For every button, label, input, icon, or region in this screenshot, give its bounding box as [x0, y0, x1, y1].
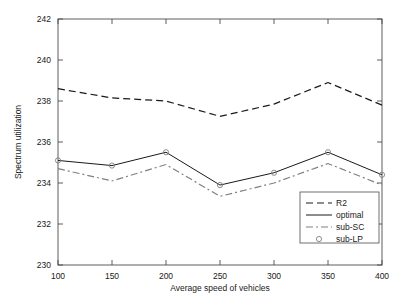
y-axis-title: Spectrum utilization — [13, 105, 23, 179]
chart-legend: R2optimalsub-SCsub-LP — [300, 192, 379, 244]
y-tick-label: 232 — [37, 219, 51, 229]
x-tick-label: 300 — [267, 271, 281, 281]
legend-label: optimal — [336, 210, 364, 220]
x-tick-label: 400 — [375, 271, 389, 281]
y-tick-label: 242 — [37, 14, 51, 24]
x-axis-title: Average speed of vehicles — [170, 283, 270, 293]
x-tick-label: 100 — [51, 271, 65, 281]
y-tick-label: 238 — [37, 96, 51, 106]
spectrum-utilization-chart: 230232234236238240242 100150200250300350… — [0, 0, 406, 307]
chart-background — [0, 0, 406, 307]
y-tick-label: 234 — [37, 178, 51, 188]
legend-label: sub-LP — [336, 234, 363, 244]
y-tick-label: 240 — [37, 55, 51, 65]
figure-canvas: 230232234236238240242 100150200250300350… — [0, 0, 406, 307]
legend-label: sub-SC — [336, 222, 364, 232]
x-tick-label: 350 — [321, 271, 335, 281]
x-tick-label: 250 — [213, 271, 227, 281]
x-tick-label: 150 — [105, 271, 119, 281]
legend-label: R2 — [336, 198, 347, 208]
y-tick-label: 236 — [37, 137, 51, 147]
x-tick-label: 200 — [159, 271, 173, 281]
y-tick-label: 230 — [37, 260, 51, 270]
